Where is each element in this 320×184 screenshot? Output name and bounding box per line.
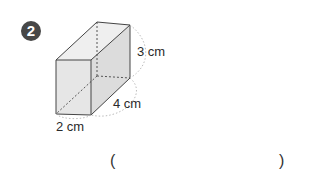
height-label: 3 cm [137, 45, 165, 59]
answer-open-paren: ( [110, 152, 115, 170]
prism-front-face [56, 60, 91, 115]
answer-blank[interactable] [122, 150, 274, 172]
depth-label: 4 cm [113, 97, 141, 111]
answer-close-paren: ) [279, 152, 284, 170]
width-label: 2 cm [56, 120, 84, 134]
